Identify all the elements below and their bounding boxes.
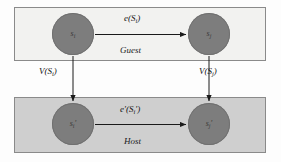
node-host-j-label: sj' bbox=[206, 120, 213, 128]
node-guest-i-label: si bbox=[71, 30, 76, 38]
node-host-j: sj' bbox=[188, 103, 230, 145]
node-guest-j: sj bbox=[188, 13, 230, 55]
host-panel-label: Host bbox=[124, 136, 141, 146]
node-guest-i: si bbox=[52, 13, 94, 55]
map-right-label: V(Sj) bbox=[199, 66, 217, 76]
node-guest-j-label: sj bbox=[207, 30, 212, 38]
host-edge-label: e'(Si') bbox=[120, 104, 140, 114]
node-host-i: si' bbox=[52, 103, 94, 145]
map-left-label: V(Si) bbox=[39, 66, 57, 76]
node-host-i-label: si' bbox=[70, 120, 77, 128]
diagram-canvas: si sj si' sj' e(Si) e'(Si') V(Si) V(Sj) … bbox=[0, 0, 281, 162]
guest-edge-label: e(Si) bbox=[124, 13, 140, 23]
guest-panel-label: Guest bbox=[120, 45, 141, 55]
